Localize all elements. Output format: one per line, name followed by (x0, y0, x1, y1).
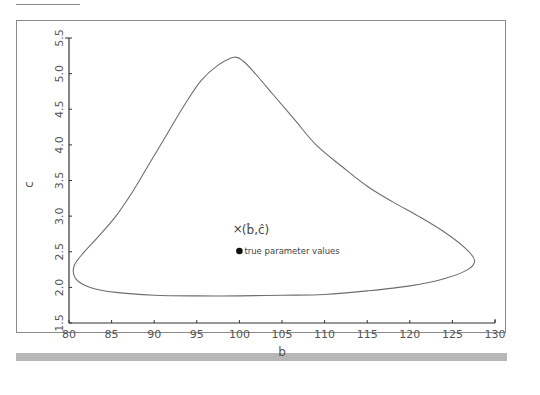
y-tick-label: 3.0 (53, 207, 66, 225)
x-tick-label: 110 (314, 328, 335, 341)
y-tick-label: 5.0 (53, 65, 66, 83)
confidence-region-contour (73, 57, 474, 296)
x-tick-label: 85 (105, 328, 119, 341)
y-tick-label: 2.5 (53, 243, 66, 261)
x-tick-label: 95 (190, 328, 204, 341)
true-parameter-label: true parameter values (244, 246, 340, 256)
estimate-label: (b̂,ĉ) (242, 223, 269, 237)
x-axis-title: b (278, 345, 286, 359)
x-tick-label: 125 (442, 328, 463, 341)
axes (65, 38, 495, 323)
x-tick-label: 100 (229, 328, 250, 341)
y-tick-label: 5.5 (53, 29, 66, 47)
x-tick-label: 130 (485, 328, 506, 341)
x-tick-label: 120 (399, 328, 420, 341)
y-axis-title: c (22, 181, 36, 188)
true-value-dot-icon (236, 248, 243, 255)
y-tick-label: 4.0 (53, 136, 66, 154)
y-tick-label: 1.5 (53, 314, 66, 332)
y-tick-label: 4.5 (53, 101, 66, 119)
x-tick-label: 115 (357, 328, 378, 341)
y-tick-label: 2.0 (53, 279, 66, 297)
x-tick-label: 90 (147, 328, 161, 341)
contour-chart: 80859095100105110115120125130 1.52.02.53… (0, 0, 540, 395)
x-tick-label: 105 (272, 328, 293, 341)
y-tick-label: 3.5 (53, 172, 66, 190)
